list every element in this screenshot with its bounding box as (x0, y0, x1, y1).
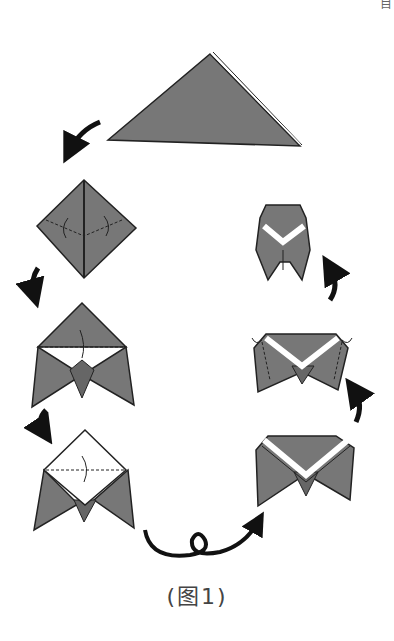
curved-arrow-icon (40, 410, 46, 432)
step-6-side-folds (252, 334, 352, 392)
step-1-triangle (108, 52, 302, 146)
curved-arrow-icon (354, 390, 360, 422)
turn-over-arrow-icon (145, 522, 258, 556)
origami-diagram (0, 0, 394, 641)
step-3-folded-wings (32, 303, 134, 407)
step-5-v-band (256, 436, 354, 506)
step-2-diamond (37, 180, 136, 278)
curved-arrow-icon (33, 268, 38, 294)
curved-arrow-icon (330, 268, 335, 300)
step-4-white-flap (34, 430, 134, 530)
step-7-finished-cicada (256, 205, 310, 280)
curved-arrow-icon (70, 122, 100, 150)
figure-caption: (图1) (0, 578, 394, 610)
